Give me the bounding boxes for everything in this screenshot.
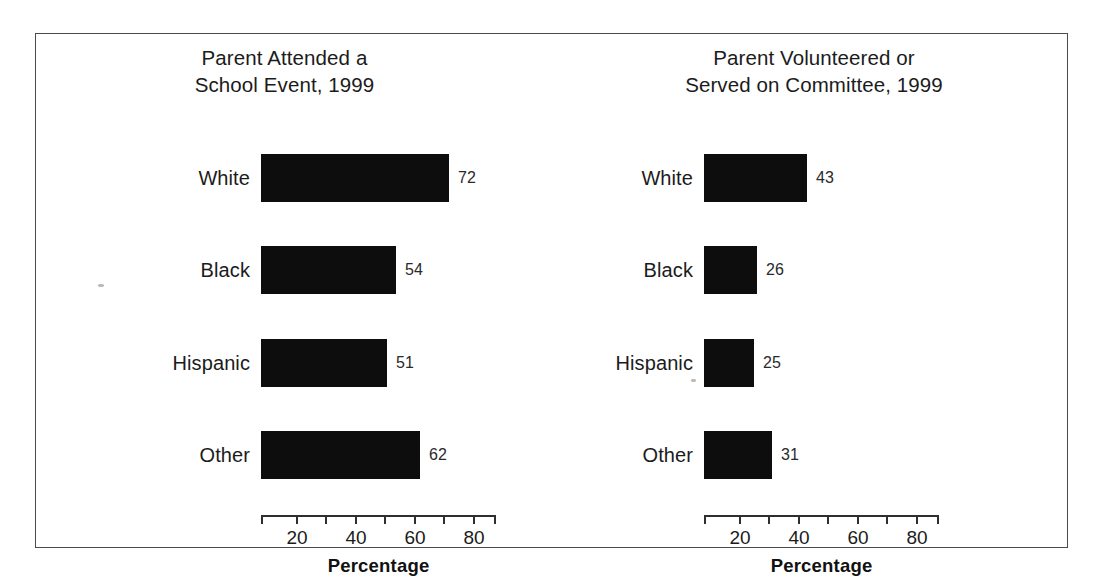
axis-tick	[827, 515, 829, 524]
category-label: Other	[642, 444, 693, 467]
category-label: Hispanic	[173, 352, 251, 375]
bar	[261, 154, 449, 202]
x-axis: 20 40 60 80 Percentage	[704, 515, 939, 517]
figure-root: Parent Attended aSchool Event, 1999 Whit…	[0, 0, 1102, 576]
bar	[704, 431, 772, 479]
category-label: White	[198, 167, 250, 190]
axis-tick	[886, 515, 888, 524]
chart-frame: Parent Attended aSchool Event, 1999 Whit…	[35, 33, 1068, 548]
bar	[704, 339, 754, 387]
bar-value-label: 51	[396, 354, 414, 372]
axis-tick	[261, 515, 263, 524]
axis-tick	[355, 515, 357, 524]
panel-title-line2: School Event, 1999	[195, 73, 375, 96]
bar-value-label: 72	[458, 169, 476, 187]
scan-speck	[98, 284, 104, 287]
x-axis: 20 40 60 80 Percentage	[261, 515, 496, 517]
bar-value-label: 54	[405, 261, 423, 279]
panel-title: Parent Attended aSchool Event, 1999	[9, 44, 560, 98]
x-axis-title: Percentage	[261, 555, 496, 576]
panel-title-line2: Served on Committee, 1999	[685, 73, 943, 96]
bar-value-label: 43	[816, 169, 834, 187]
scan-speck	[691, 379, 696, 382]
axis-tick-label: 20	[729, 527, 750, 549]
axis-tick-label: 60	[847, 527, 868, 549]
axis-tick-label: 20	[286, 527, 307, 549]
category-label: Black	[644, 259, 693, 282]
bar-value-label: 62	[429, 446, 447, 464]
panel-parent-volunteered-or-served-on-committee: Parent Volunteered orServed on Committee…	[587, 34, 1069, 547]
panel-title-line1: Parent Volunteered or	[713, 46, 915, 69]
category-label: Black	[201, 259, 250, 282]
bar	[261, 246, 396, 294]
axis-tick	[768, 515, 770, 524]
category-label: White	[641, 167, 693, 190]
plot-area: White 72 Black 54 Hispanic 51 Other	[261, 121, 501, 541]
plot-area: White 43 Black 26 Hispanic 25 Other	[704, 121, 944, 541]
bar	[704, 246, 757, 294]
bar	[261, 339, 387, 387]
axis-tick-label: 60	[404, 527, 425, 549]
panel-title-line1: Parent Attended a	[202, 46, 368, 69]
axis-tick-label: 40	[788, 527, 809, 549]
axis-tick	[473, 515, 475, 524]
axis-tick	[494, 515, 496, 524]
axis-tick	[739, 515, 741, 524]
axis-tick	[798, 515, 800, 524]
axis-tick	[443, 515, 445, 524]
bar-value-label: 26	[766, 261, 784, 279]
axis-tick	[325, 515, 327, 524]
axis-tick	[414, 515, 416, 524]
axis-tick	[384, 515, 386, 524]
x-axis-title: Percentage	[704, 555, 939, 576]
bar	[704, 154, 807, 202]
bar-value-label: 25	[763, 354, 781, 372]
bar-value-label: 31	[781, 446, 799, 464]
axis-tick	[704, 515, 706, 524]
panel-parent-attended-school-event: Parent Attended aSchool Event, 1999 Whit…	[36, 34, 587, 547]
axis-tick	[916, 515, 918, 524]
axis-tick-label: 80	[463, 527, 484, 549]
axis-tick	[857, 515, 859, 524]
category-label: Other	[199, 444, 250, 467]
axis-tick-label: 80	[906, 527, 927, 549]
axis-tick-label: 40	[345, 527, 366, 549]
axis-tick	[937, 515, 939, 524]
panel-title: Parent Volunteered orServed on Committee…	[573, 44, 1055, 98]
axis-tick	[296, 515, 298, 524]
category-label: Hispanic	[616, 352, 694, 375]
bar	[261, 431, 420, 479]
